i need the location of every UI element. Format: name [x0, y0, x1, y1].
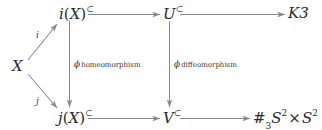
arrow-label-j-text: j	[36, 96, 39, 106]
node-U: U⊂	[163, 6, 183, 22]
node-j-of-X-arg: X	[69, 109, 80, 127]
times-icon: ×	[287, 109, 302, 127]
homeomorphism-text: homeomorphism	[81, 61, 140, 69]
node-V-label: V	[163, 109, 174, 127]
connected-sum-icon: #	[253, 109, 266, 127]
connected-sum-index: 3	[266, 121, 272, 130]
sphere-exponent-1: 2	[282, 108, 288, 118]
subset-icon: ⊂	[176, 4, 184, 14]
diffeomorphism-text: diffeomorphism	[181, 61, 237, 69]
sphere-symbol-2: S	[302, 109, 312, 127]
node-connected-sum: #3S2×S2	[253, 110, 318, 129]
node-V: V⊂	[163, 110, 181, 126]
sphere-symbol-1: S	[271, 109, 281, 127]
node-X-label: X	[12, 57, 23, 75]
node-U-label: U	[163, 5, 176, 23]
subset-icon: ⊂	[174, 108, 182, 118]
subset-icon: ⊂	[85, 108, 93, 118]
arrow-label-i-text: i	[36, 30, 39, 40]
node-k3-label: K3	[288, 4, 309, 22]
arrow-X-to-iX	[28, 24, 57, 60]
node-X: X	[12, 59, 23, 74]
arrow-X-to-jX	[28, 74, 57, 108]
node-k3: K3	[288, 6, 309, 21]
node-i-of-X: i(X)⊂	[59, 6, 94, 22]
node-i-of-X-arg: X	[70, 5, 81, 23]
sphere-exponent-2: 2	[312, 108, 318, 118]
arrow-label-i: i	[36, 31, 39, 40]
arrow-label-homeomorphism: ϕhomeomorphism	[74, 60, 141, 69]
commutative-diagram: X i(X)⊂ j(X)⊂ U⊂ V⊂ K3 #3S2×S2 i j ϕhome…	[0, 0, 322, 130]
subset-icon: ⊂	[86, 4, 94, 14]
arrow-label-j: j	[36, 97, 39, 106]
node-j-of-X: j(X)⊂	[58, 110, 93, 126]
arrow-label-diffeomorphism: ϕdiffeomorphism	[174, 60, 237, 69]
